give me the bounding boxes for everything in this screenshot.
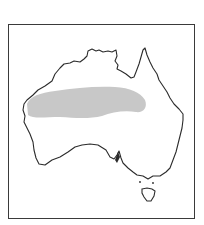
distribution-range-shape	[27, 87, 146, 118]
bass-strait-island	[152, 182, 154, 184]
australia-map	[0, 0, 204, 225]
bass-strait-island	[139, 181, 141, 183]
tasmania-coastline	[142, 188, 155, 201]
